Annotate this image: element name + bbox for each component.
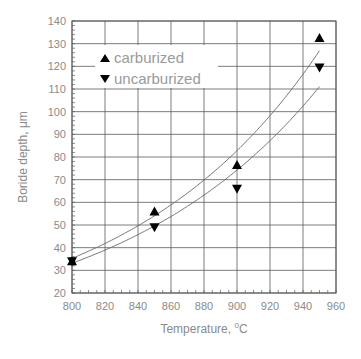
y-tick-label: 60	[54, 196, 66, 208]
triangle-up-icon	[232, 160, 242, 169]
y-tick-labels: 2030405060708090100110120130140	[48, 15, 66, 299]
y-tick-label: 70	[54, 174, 66, 186]
x-tick-label: 800	[63, 300, 81, 312]
x-tick-labels: 800820840860880900920940960	[63, 300, 345, 312]
y-tick-label: 80	[54, 151, 66, 163]
y-tick-label: 20	[54, 287, 66, 299]
triangle-up-icon	[150, 206, 160, 215]
legend-label: carburized	[114, 49, 184, 66]
x-tick-label: 860	[162, 300, 180, 312]
triangle-down-icon	[315, 63, 325, 72]
y-tick-label: 100	[48, 106, 66, 118]
x-tick-label: 840	[129, 300, 147, 312]
y-tick-label: 130	[48, 38, 66, 50]
y-axis-title: Boride depth, μm	[16, 111, 30, 203]
fit-curve-uncarburized	[72, 87, 320, 264]
x-tick-label: 920	[261, 300, 279, 312]
y-tick-label: 50	[54, 219, 66, 231]
x-tick-label: 940	[294, 300, 312, 312]
x-tick-label: 880	[195, 300, 213, 312]
y-tick-label: 90	[54, 128, 66, 140]
legend-label: uncarburized	[114, 70, 201, 87]
x-tick-label: 960	[327, 300, 345, 312]
y-tick-label: 30	[54, 264, 66, 276]
triangle-up-icon	[315, 33, 325, 42]
triangle-down-icon	[232, 185, 242, 194]
chart: 2030405060708090100110120130140 80082084…	[0, 0, 361, 359]
x-tick-label: 900	[228, 300, 246, 312]
x-tick-label: 820	[96, 300, 114, 312]
y-tick-label: 140	[48, 15, 66, 27]
y-tick-label: 110	[48, 83, 66, 95]
legend-item-uncarburized: uncarburized	[100, 70, 201, 87]
y-tick-label: 40	[54, 242, 66, 254]
y-tick-label: 120	[48, 60, 66, 72]
x-axis-title: Temperature, 0C	[160, 321, 248, 336]
